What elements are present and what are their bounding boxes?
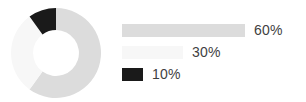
legend-label-10: 10% bbox=[152, 67, 181, 81]
legend-label-30: 30% bbox=[192, 45, 221, 59]
legend-item-60[interactable]: 60% bbox=[122, 23, 283, 37]
legend-item-30[interactable]: 30% bbox=[122, 45, 221, 59]
legend-swatch-60 bbox=[122, 24, 245, 37]
legend-label-60: 60% bbox=[254, 23, 283, 37]
legend-swatch-30 bbox=[122, 46, 183, 59]
legend-item-10[interactable]: 10% bbox=[122, 67, 181, 81]
donut-chart-figure: 60% 30% 10% bbox=[0, 0, 306, 102]
donut-slice-group bbox=[11, 8, 101, 98]
legend-swatch-10 bbox=[122, 68, 143, 81]
chart-legend: 60% 30% 10% bbox=[122, 18, 306, 94]
donut-chart-svg bbox=[10, 7, 102, 99]
donut-chart-plot-area bbox=[10, 7, 102, 99]
